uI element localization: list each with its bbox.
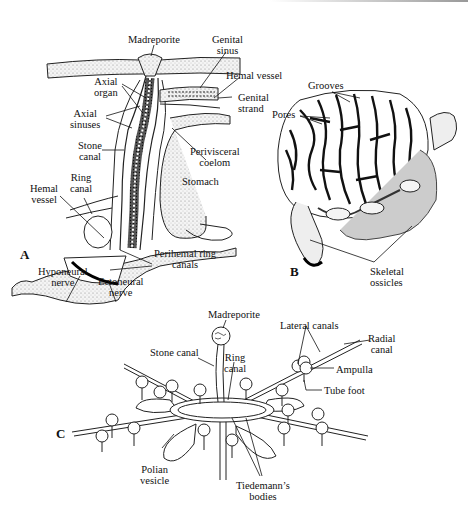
label-line: Radial <box>368 333 395 344</box>
label-b-pores: Pores <box>272 109 295 120</box>
label-line: Genital <box>238 92 269 103</box>
label-line: Skeletal <box>370 266 404 277</box>
label-a-hyponeural-nerve: Hyponeuralnerve <box>38 266 88 288</box>
label-c-ring-canal: Ringcanal <box>224 352 246 374</box>
label-a-perihemal-ring-canals: Perihemal ringcanals <box>154 248 216 270</box>
label-a-hemal-vessel: Hemal vessel <box>226 70 282 81</box>
label-line: canals <box>172 259 198 270</box>
label-line: sinus <box>217 45 239 56</box>
label-a-axial-sinuses: Axialsinuses <box>70 108 100 130</box>
label-a-genital-strand: Genitalstrand <box>238 92 269 114</box>
label-c-polian-vesicle: Polianvesicle <box>140 464 169 486</box>
label-line: Ectoneural <box>98 276 143 287</box>
panel-letter-c: C <box>56 426 65 442</box>
label-c-tube-foot: Tube foot <box>324 385 365 396</box>
label-a-axial-organ: Axialorgan <box>94 76 118 98</box>
label-c-stone-canal: Stone canal <box>150 347 199 358</box>
label-line: nerve <box>109 287 132 298</box>
label-line: canal <box>371 344 393 355</box>
label-a-madreporite: Madreporite <box>128 34 180 45</box>
label-line: vessel <box>31 194 57 205</box>
figure-canvas: Madreporite Genitalsinus Hemal vessel Ge… <box>0 0 468 506</box>
label-a-ectoneural-nerve: Ectoneuralnerve <box>98 276 143 298</box>
label-line: Perivisceral <box>190 146 240 157</box>
label-line: Ring <box>225 352 245 363</box>
label-c-madreporite: Madreporite <box>208 309 260 320</box>
label-c-radial-canal: Radialcanal <box>368 333 395 355</box>
label-line: Ring <box>71 172 91 183</box>
label-a-hemal-vessel-left: Hemalvessel <box>30 183 58 205</box>
label-line: nerve <box>51 277 74 288</box>
label-c-lateral-canals: Lateral canals <box>280 320 339 331</box>
label-line: vesicle <box>140 475 169 486</box>
label-c-ampulla: Ampulla <box>336 364 373 375</box>
label-line: canal <box>224 363 246 374</box>
label-line: coelom <box>199 157 230 168</box>
label-line: Tiedemann’s <box>236 480 290 491</box>
label-b-grooves: Grooves <box>308 80 344 91</box>
label-a-ring-canal: Ringcanal <box>70 172 92 194</box>
label-line: organ <box>94 87 118 98</box>
label-line: sinuses <box>70 119 100 130</box>
panel-c-drawing <box>72 327 368 480</box>
label-b-skeletal-ossicles: Skeletalossicles <box>370 266 404 288</box>
label-line: Hemal <box>30 183 58 194</box>
label-a-stomach: Stomach <box>182 176 219 187</box>
label-a-perivisceral-coelom: Perivisceralcoelom <box>190 146 240 168</box>
label-line: canal <box>70 183 92 194</box>
label-line: Stone <box>78 140 102 151</box>
label-line: bodies <box>249 491 276 502</box>
panel-letter-a: A <box>20 247 29 263</box>
label-line: strand <box>238 103 264 114</box>
label-a-stone-canal: Stonecanal <box>78 140 102 162</box>
label-line: Axial <box>94 76 117 87</box>
label-line: Perihemal ring <box>154 248 216 259</box>
label-a-genital-sinus: Genitalsinus <box>212 34 243 56</box>
label-line: Genital <box>212 34 243 45</box>
label-c-tiedemanns-bodies: Tiedemann’sbodies <box>236 480 290 502</box>
label-line: Polian <box>141 464 168 475</box>
label-line: canal <box>79 151 101 162</box>
label-line: Hyponeural <box>38 266 88 277</box>
label-line: Axial <box>74 108 97 119</box>
label-line: ossicles <box>370 277 403 288</box>
panel-letter-b: B <box>290 264 299 280</box>
